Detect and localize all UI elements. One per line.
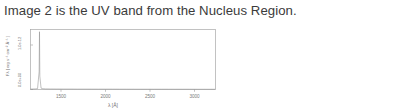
- spectrum-figure: Fλ [ erg s⁻¹ cm⁻² Å⁻¹ ] 1.0e-12 0.0e+00 …: [0, 24, 230, 112]
- figure-caption: Image 2 is the UV band from the Nucleus …: [4, 3, 404, 18]
- y-tick-label-upper: 1.0e-12: [17, 37, 22, 50]
- plot-frame: [31, 30, 216, 90]
- y-tick-label-lower: 0.0e+00: [17, 72, 22, 87]
- x-axis-label: λ [Å]: [108, 102, 119, 108]
- spectrum-plot: Fλ [ erg s⁻¹ cm⁻² Å⁻¹ ] 1.0e-12 0.0e+00 …: [0, 24, 230, 112]
- y-axis-label: Fλ [ erg s⁻¹ cm⁻² Å⁻¹ ]: [5, 36, 10, 76]
- x-tick-label-2500: 2500: [145, 94, 156, 99]
- x-tick-label-3000: 3000: [189, 94, 200, 99]
- x-tick-label-2000: 2000: [100, 94, 111, 99]
- figure-page: Image 2 is the UV band from the Nucleus …: [0, 0, 407, 112]
- x-tick-label-1500: 1500: [56, 94, 67, 99]
- spectrum-trace: [31, 32, 216, 90]
